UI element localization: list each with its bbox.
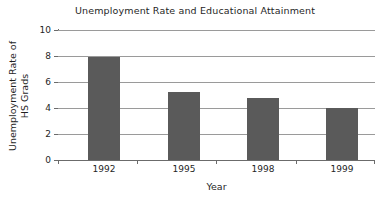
x-tick-label-1998: 1998	[252, 164, 275, 174]
chart-title: Unemployment Rate and Educational Attain…	[0, 5, 390, 16]
x-tick-label-1992: 1992	[93, 164, 116, 174]
y-tick-mark	[54, 30, 58, 31]
gridline	[58, 30, 375, 31]
x-tick-mark	[374, 160, 375, 164]
y-tick-label: 0	[45, 155, 51, 165]
x-axis-title: Year	[58, 181, 375, 192]
y-tick-label: 4	[45, 103, 51, 113]
y-tick-mark	[54, 108, 58, 109]
y-axis-title-line-1: Unemployment Rate of	[7, 41, 19, 151]
y-tick-label: 8	[45, 51, 51, 61]
y-axis-title: Unemployment Rate of HS Grads	[2, 30, 36, 162]
y-tick-label: 6	[45, 77, 51, 87]
y-tick-mark	[54, 134, 58, 135]
x-tick-mark	[137, 160, 138, 164]
y-axis-title-text: Unemployment Rate of HS Grads	[7, 41, 31, 151]
x-tick-mark	[58, 160, 59, 164]
x-tick-mark	[296, 160, 297, 164]
x-tick-label-1995: 1995	[173, 164, 196, 174]
bar-chart-figure: Unemployment Rate and Educational Attain…	[0, 0, 390, 202]
y-tick-mark	[54, 82, 58, 83]
plot-area: 10 8 6 4 2 0	[58, 30, 375, 160]
bar-1992	[88, 57, 120, 160]
x-tick-label-1999: 1999	[331, 164, 354, 174]
bar-1998	[247, 98, 279, 160]
y-tick-label: 2	[45, 129, 51, 139]
bar-1995	[168, 92, 200, 160]
bar-1999	[326, 108, 358, 160]
y-axis-title-line-2: HS Grads	[19, 41, 31, 151]
x-tick-mark	[216, 160, 217, 164]
y-tick-mark	[54, 56, 58, 57]
y-tick-label: 10	[40, 25, 51, 35]
